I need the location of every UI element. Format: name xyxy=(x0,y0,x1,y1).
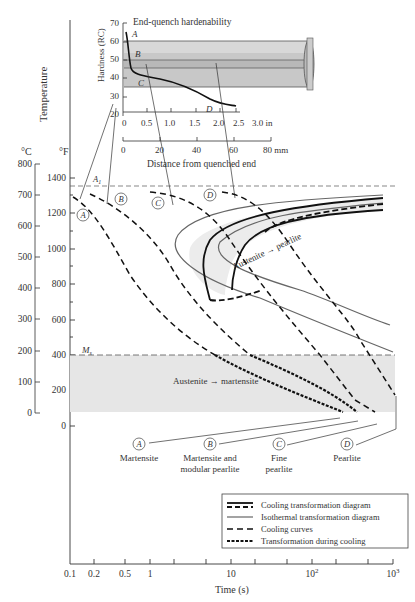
svg-text:B: B xyxy=(135,49,141,59)
svg-text:103: 103 xyxy=(387,567,401,579)
svg-text:200: 200 xyxy=(18,346,33,356)
svg-text:60: 60 xyxy=(229,145,239,155)
svg-text:modular pearlite: modular pearlite xyxy=(180,464,239,474)
time-axis xyxy=(70,559,393,564)
svg-text:1400: 1400 xyxy=(47,173,66,183)
a1-label: A1 xyxy=(92,174,101,185)
svg-text:10: 10 xyxy=(226,569,236,579)
celsius-axis xyxy=(35,164,40,413)
svg-text:C: C xyxy=(138,78,145,88)
svg-text:0.2: 0.2 xyxy=(88,569,100,579)
svg-text:700: 700 xyxy=(18,190,33,200)
svg-text:400: 400 xyxy=(52,350,67,360)
svg-text:Pearlite: Pearlite xyxy=(333,453,361,463)
svg-text:30: 30 xyxy=(110,91,120,101)
curve-labels: A B C D xyxy=(77,189,216,221)
svg-text:A: A xyxy=(79,210,86,220)
svg-text:A: A xyxy=(135,439,142,449)
time-label: Time (s) xyxy=(215,584,249,596)
svg-text:40: 40 xyxy=(110,72,120,82)
result-labels: Martensite Martensite and modular pearli… xyxy=(120,453,361,474)
svg-text:70: 70 xyxy=(110,18,120,28)
svg-text:1.0: 1.0 xyxy=(164,118,176,128)
svg-text:600: 600 xyxy=(18,221,33,231)
svg-text:pearlite: pearlite xyxy=(266,464,293,474)
svg-text:1000: 1000 xyxy=(47,244,66,254)
legend-transformation-cooling: Transformation during cooling xyxy=(261,536,366,546)
inset-title: End-quench hardenability xyxy=(133,17,232,27)
svg-text:600: 600 xyxy=(52,315,67,325)
svg-text:C: C xyxy=(155,198,161,208)
time-ticks: 0.10.20.5 110 102 103 xyxy=(64,567,400,579)
svg-text:2.0: 2.0 xyxy=(213,118,225,128)
svg-text:102: 102 xyxy=(306,567,320,579)
legend-cooling-curves: Cooling curves xyxy=(261,524,313,534)
fahrenheit-label: °F xyxy=(59,146,69,157)
svg-text:0.1: 0.1 xyxy=(64,569,76,579)
chart: 70 60 50 40 30 20 0 0.5 1.0 1.5 2.0 2.5 … xyxy=(0,0,415,602)
svg-text:400: 400 xyxy=(18,283,33,293)
svg-text:500: 500 xyxy=(18,252,33,262)
fahrenheit-ticks: 140012001000 800600400 2000 xyxy=(47,173,66,431)
svg-text:Martensite: Martensite xyxy=(120,453,159,463)
svg-text:0.5: 0.5 xyxy=(141,118,153,128)
svg-text:C: C xyxy=(276,439,282,449)
svg-text:50: 50 xyxy=(110,54,120,64)
svg-text:2.5: 2.5 xyxy=(233,118,245,128)
svg-text:300: 300 xyxy=(18,314,33,324)
svg-text:0: 0 xyxy=(121,145,126,155)
svg-text:0: 0 xyxy=(122,118,127,128)
svg-text:A: A xyxy=(131,29,138,39)
ms-label: Ms xyxy=(81,345,93,356)
svg-text:B: B xyxy=(118,194,123,204)
temperature-label: Temperature xyxy=(37,66,49,122)
svg-text:D: D xyxy=(205,104,213,114)
svg-text:0: 0 xyxy=(61,421,66,431)
svg-text:1.5: 1.5 xyxy=(189,118,201,128)
legend-cooling-transformation: Cooling transformation diagram xyxy=(261,500,371,510)
legend: Cooling transformation diagram Isotherma… xyxy=(222,494,408,548)
celsius-ticks: 800700600 500400300 2001000 xyxy=(18,159,33,418)
svg-text:D: D xyxy=(206,190,214,200)
svg-text:40: 40 xyxy=(192,145,202,155)
svg-text:20: 20 xyxy=(110,109,120,119)
inset-xlabel: Distance from quenched end xyxy=(147,159,256,169)
svg-text:0.5: 0.5 xyxy=(119,569,131,579)
svg-text:1: 1 xyxy=(148,569,153,579)
svg-text:800: 800 xyxy=(18,159,33,169)
svg-text:100: 100 xyxy=(18,377,33,387)
svg-text:60: 60 xyxy=(110,36,120,46)
fahrenheit-axis xyxy=(70,20,75,564)
austenite-martensite-label: Austenite → martensite xyxy=(173,376,258,386)
svg-text:3.0 in: 3.0 in xyxy=(252,118,273,128)
legend-isothermal: Isothermal transformation diagram xyxy=(261,512,380,522)
svg-text:0: 0 xyxy=(27,408,32,418)
svg-text:Fine: Fine xyxy=(271,453,287,463)
cooling-curve-a xyxy=(73,197,215,355)
svg-text:800: 800 xyxy=(52,279,67,289)
svg-text:Martensite and: Martensite and xyxy=(183,453,237,463)
svg-text:B: B xyxy=(207,439,212,449)
svg-text:D: D xyxy=(343,439,351,449)
inset-ylabel: Hardness (RC) xyxy=(96,28,106,82)
svg-text:1200: 1200 xyxy=(47,208,66,218)
svg-text:80 mm: 80 mm xyxy=(263,145,288,155)
svg-text:200: 200 xyxy=(52,385,67,395)
celsius-label: °C xyxy=(21,146,32,157)
